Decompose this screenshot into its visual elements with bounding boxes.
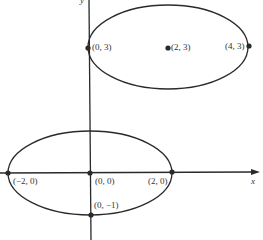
point-2-3 — [165, 45, 170, 50]
label-2-0: (2, 0) — [148, 176, 168, 186]
point-2-0 — [169, 169, 174, 174]
label-0-0: (0, 0) — [95, 176, 115, 186]
label-4-3: (4, 3) — [225, 41, 245, 51]
coordinate-plot — [0, 0, 263, 240]
point-0-neg1 — [88, 212, 93, 217]
point-neg2-0 — [5, 170, 10, 175]
label-2-3: (2, 3) — [171, 42, 191, 52]
point-0-0 — [87, 170, 92, 175]
label-0-neg1: (0, −1) — [94, 200, 119, 210]
y-axis-label: y — [80, 0, 84, 5]
label-0-3: (0, 3) — [92, 42, 112, 52]
x-axis — [0, 172, 254, 173]
point-0-3 — [85, 45, 90, 50]
label-neg2-0: (−2, 0) — [13, 176, 38, 186]
x-axis-arrow-icon — [251, 169, 260, 175]
point-4-3 — [246, 43, 251, 48]
x-axis-label: x — [251, 176, 255, 186]
